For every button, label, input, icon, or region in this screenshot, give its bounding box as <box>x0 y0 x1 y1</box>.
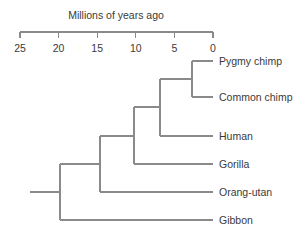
tree-branches <box>30 61 213 220</box>
taxon-labels: Pygmy chimp Common chimp Human Gorilla O… <box>219 55 293 226</box>
taxon-label-gorilla: Gorilla <box>219 158 250 170</box>
axis-tick-label-0: 0 <box>210 42 216 54</box>
taxon-label-common-chimp: Common chimp <box>219 91 293 103</box>
axis-tick-label-15: 15 <box>91 42 103 54</box>
axis-tick-label-5: 5 <box>171 42 177 54</box>
axis-title: Millions of years ago <box>68 9 164 21</box>
axis-tick-label-25: 25 <box>14 42 26 54</box>
phylogenetic-tree-figure: 25 20 15 10 5 0 Millions of years ago <box>0 0 301 234</box>
taxon-label-pygmy-chimp: Pygmy chimp <box>219 55 282 67</box>
axis-tick-label-10: 10 <box>130 42 142 54</box>
time-axis: 25 20 15 10 5 0 Millions of years ago <box>14 9 216 54</box>
taxon-label-orang-utan: Orang-utan <box>219 186 272 198</box>
taxon-label-gibbon: Gibbon <box>219 214 253 226</box>
axis-tick-label-20: 20 <box>53 42 65 54</box>
tree-canvas: 25 20 15 10 5 0 Millions of years ago <box>0 0 301 234</box>
taxon-label-human: Human <box>219 130 253 142</box>
